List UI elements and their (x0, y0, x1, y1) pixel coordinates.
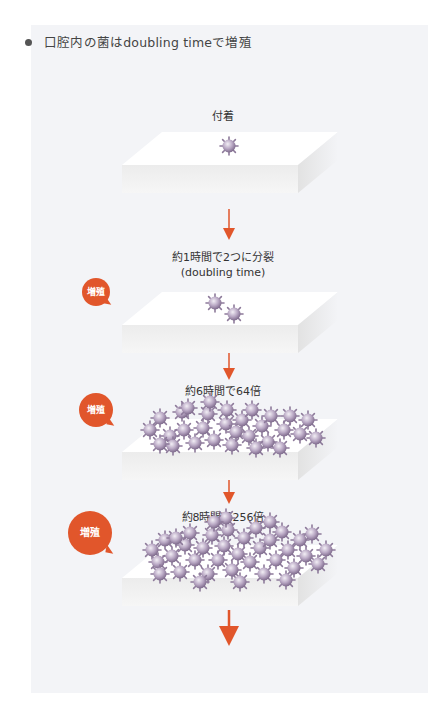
diagram-graphics (0, 0, 446, 718)
bacterium (220, 137, 238, 155)
surface-2 (122, 292, 338, 353)
